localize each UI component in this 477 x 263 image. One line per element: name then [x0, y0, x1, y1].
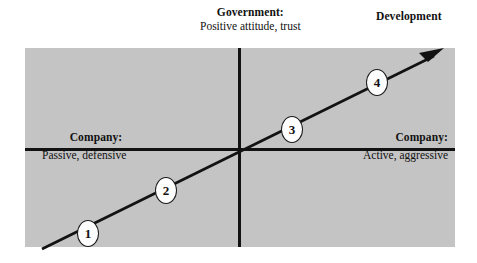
company-left-label: Company: Passive, defensive — [42, 131, 148, 162]
company-right-label-title: Company: — [340, 131, 448, 145]
stage-marker-2: 2 — [155, 177, 177, 204]
government-label: Government: Positive attitude, trust — [200, 6, 301, 33]
stage-marker-4: 4 — [366, 69, 388, 96]
company-right-label: Company: Active, aggressive — [340, 131, 448, 162]
development-stage-quadrant-diagram: Government: Positive attitude, trust Dev… — [0, 0, 477, 263]
company-right-label-subtitle: Active, aggressive — [340, 149, 448, 163]
stage-marker-1: 1 — [77, 220, 99, 247]
company-left-label-title: Company: — [44, 131, 148, 145]
company-left-label-subtitle: Passive, defensive — [42, 149, 148, 163]
development-label: Development — [376, 6, 442, 25]
development-label-title: Development — [376, 10, 442, 22]
government-label-subtitle: Positive attitude, trust — [200, 20, 301, 34]
arrowhead-icon — [419, 48, 444, 62]
stage-marker-3: 3 — [281, 116, 303, 143]
government-label-title: Government: — [200, 6, 301, 20]
